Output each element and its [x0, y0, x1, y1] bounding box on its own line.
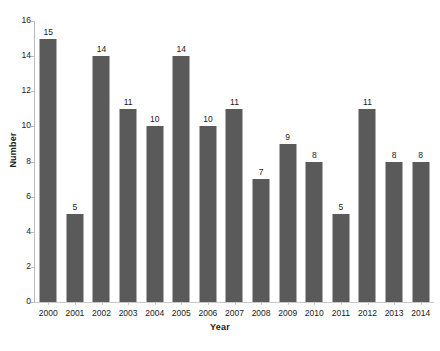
x-axis-tick-mark: [235, 302, 236, 305]
x-axis-tick-mark: [341, 302, 342, 305]
bar[interactable]: [279, 144, 296, 302]
x-axis-title: Year: [0, 322, 440, 332]
x-axis-tick-label: 2008: [252, 308, 271, 319]
bar-value-label: 11: [230, 97, 239, 107]
y-axis-tick-mark: [31, 232, 34, 233]
x-axis-tick-label: 2002: [92, 308, 111, 319]
bar[interactable]: [146, 126, 163, 302]
bar[interactable]: [66, 214, 83, 302]
bar-group[interactable]: 5: [62, 21, 89, 302]
y-axis-tick-label: 16: [22, 15, 31, 26]
bar[interactable]: [306, 162, 323, 303]
bar-group[interactable]: 11: [115, 21, 142, 302]
bar-group[interactable]: 7: [248, 21, 275, 302]
bar[interactable]: [359, 109, 376, 302]
bar-value-label: 14: [177, 44, 186, 54]
plot-area: 15514111014101179851188: [35, 21, 434, 302]
bar-value-label: 15: [44, 27, 53, 37]
y-axis-title-text: Number: [8, 132, 18, 167]
x-axis-tick-label: 2014: [411, 308, 430, 319]
x-axis-tick-label: 2005: [172, 308, 191, 319]
bar[interactable]: [226, 109, 243, 302]
bar-group[interactable]: 15: [35, 21, 62, 302]
bar[interactable]: [173, 56, 190, 302]
x-axis-tick-label: 2007: [225, 308, 244, 319]
x-axis-tick-label: 2006: [198, 308, 217, 319]
bar-value-label: 10: [150, 114, 159, 124]
bar[interactable]: [386, 162, 403, 303]
bar-value-label: 8: [392, 150, 397, 160]
bar[interactable]: [93, 56, 110, 302]
x-axis-tick-mark: [181, 302, 182, 305]
x-axis-tick-mark: [421, 302, 422, 305]
x-axis-tick-mark: [261, 302, 262, 305]
x-axis-tick-label: 2010: [305, 308, 324, 319]
bar-group[interactable]: 11: [354, 21, 381, 302]
bar-value-label: 5: [73, 202, 78, 212]
bar-value-label: 10: [203, 114, 212, 124]
x-axis-tick-label: 2012: [358, 308, 377, 319]
x-axis-tick-label: 2000: [39, 308, 58, 319]
bar-value-label: 8: [418, 150, 423, 160]
y-axis-tick-mark: [31, 162, 34, 163]
bar-value-label: 14: [97, 44, 106, 54]
y-axis-tick-mark: [31, 267, 34, 268]
y-axis-tick-mark: [31, 21, 34, 22]
bar-value-label: 5: [339, 202, 344, 212]
x-axis-tick-mark: [208, 302, 209, 305]
x-axis-tick-label: 2003: [119, 308, 138, 319]
bar[interactable]: [412, 162, 429, 303]
bar-chart: Number 0246810121416 1551411101410117985…: [0, 0, 440, 351]
x-axis-tick-label: 2009: [278, 308, 297, 319]
bar[interactable]: [199, 126, 216, 302]
bar-group[interactable]: 5: [328, 21, 355, 302]
bar[interactable]: [332, 214, 349, 302]
x-axis-tick-label: 2011: [332, 308, 350, 319]
y-axis-tick-mark: [31, 126, 34, 127]
bar-group[interactable]: 11: [221, 21, 248, 302]
bar-group[interactable]: 10: [141, 21, 168, 302]
bar-group[interactable]: 10: [195, 21, 222, 302]
bar-value-label: 11: [124, 97, 133, 107]
y-axis-tick-label: 10: [22, 120, 31, 131]
bar-group[interactable]: 14: [88, 21, 115, 302]
bar[interactable]: [120, 109, 137, 302]
bar-value-label: 11: [363, 97, 372, 107]
y-axis-tick-mark: [31, 197, 34, 198]
x-axis-tick-mark: [368, 302, 369, 305]
x-axis-tick-mark: [128, 302, 129, 305]
bar-group[interactable]: 8: [407, 21, 434, 302]
bar-group[interactable]: 8: [381, 21, 408, 302]
x-axis-tick-mark: [314, 302, 315, 305]
x-axis-tick-mark: [102, 302, 103, 305]
x-axis-tick-mark: [75, 302, 76, 305]
x-axis-tick-mark: [48, 302, 49, 305]
x-axis-tick-label: 2013: [385, 308, 404, 319]
y-axis-tick-label: 12: [22, 85, 31, 96]
y-axis-tick-label: 14: [22, 50, 31, 61]
bar-group[interactable]: 8: [301, 21, 328, 302]
x-axis-tick-mark: [288, 302, 289, 305]
bar-group[interactable]: 9: [274, 21, 301, 302]
y-axis-tick-mark: [31, 91, 34, 92]
bar-group[interactable]: 14: [168, 21, 195, 302]
bar-value-label: 8: [312, 150, 317, 160]
x-axis-title-text: Year: [210, 322, 230, 332]
bar-value-label: 9: [285, 132, 290, 142]
x-axis-tick-mark: [394, 302, 395, 305]
x-axis-tick-label: 2004: [145, 308, 164, 319]
x-axis-tick-mark: [155, 302, 156, 305]
y-axis-title: Number: [0, 0, 26, 300]
bar[interactable]: [40, 39, 57, 302]
bar[interactable]: [253, 179, 270, 302]
x-axis-tick-label: 2001: [65, 308, 84, 319]
bar-value-label: 7: [259, 167, 264, 177]
y-axis-tick-mark: [31, 56, 34, 57]
